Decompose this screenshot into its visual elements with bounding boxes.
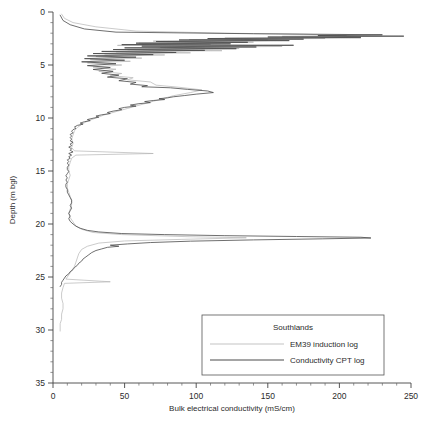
x-tick-label: 100 bbox=[189, 391, 203, 401]
legend-label-em39: EM39 induction log bbox=[290, 340, 358, 349]
legend-label-cpt: Conductivity CPT log bbox=[290, 356, 365, 365]
y-tick-label: 5 bbox=[40, 60, 45, 70]
x-tick-label: 200 bbox=[332, 391, 346, 401]
x-tick-label: 250 bbox=[404, 391, 418, 401]
x-tick-label: 50 bbox=[120, 391, 130, 401]
y-tick-label: 0 bbox=[40, 7, 45, 17]
x-tick-label: 150 bbox=[261, 391, 275, 401]
y-axis-title: Depth (m bgl) bbox=[8, 175, 17, 224]
x-axis-title: Bulk electrical conductivity (mS/cm) bbox=[169, 404, 295, 413]
y-tick-label: 15 bbox=[36, 166, 46, 176]
chart-legend: Southlands EM39 induction log Conductivi… bbox=[202, 315, 384, 375]
y-tick-label: 30 bbox=[36, 325, 46, 335]
chart-container: 05101520253035050100150200250 Bulk elect… bbox=[0, 0, 431, 433]
y-tick-label: 25 bbox=[36, 272, 46, 282]
y-axis-title-group: Depth (m bgl) bbox=[8, 175, 17, 224]
legend-title: Southlands bbox=[273, 323, 313, 332]
y-tick-label: 20 bbox=[36, 219, 46, 229]
y-tick-label: 10 bbox=[36, 113, 46, 123]
chart-plot-area: 05101520253035050100150200250 Bulk elect… bbox=[0, 0, 431, 433]
x-tick-label: 0 bbox=[51, 391, 56, 401]
y-tick-label: 35 bbox=[36, 378, 46, 388]
